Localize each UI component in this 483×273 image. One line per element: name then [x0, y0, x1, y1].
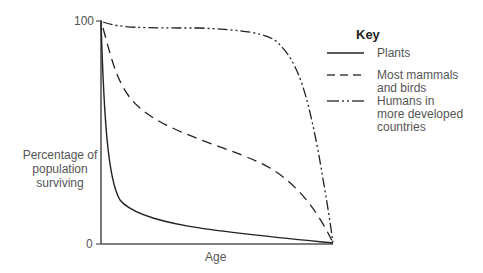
key-label-line: Plants: [377, 47, 483, 60]
key-title: Key: [356, 27, 380, 42]
key-label-mammals-birds: Most mammals and birds: [377, 69, 483, 95]
y-axis-label-line-2: population: [20, 162, 100, 176]
key-label-humans: Humans in more developed countries: [377, 95, 483, 134]
x-axis-label: Age: [205, 250, 226, 264]
y-axis-label-line-1: Percentage of: [20, 148, 100, 162]
series-humans-line: [103, 22, 333, 243]
series-mammals-birds-line: [103, 28, 333, 243]
y-axis-label: Percentage of population surviving: [20, 148, 100, 190]
survivorship-chart: [0, 0, 483, 273]
key-label-plants: Plants: [377, 47, 483, 60]
y-tick-label-100: 100: [74, 14, 94, 28]
series-plants-line: [101, 21, 333, 243]
y-axis-label-line-3: surviving: [20, 176, 100, 190]
key-label-line: countries: [377, 121, 483, 134]
y-tick-label-0: 0: [86, 237, 93, 251]
